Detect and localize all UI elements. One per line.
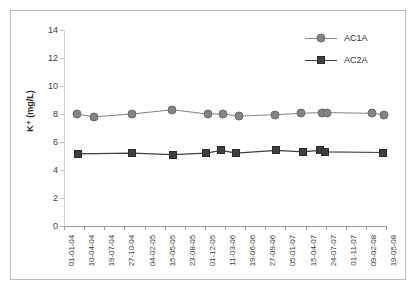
x-tick-label: 27-09-06	[268, 235, 277, 266]
legend-item-ac1a[interactable]: AC1A	[305, 27, 391, 49]
data-point-ac2a	[128, 149, 136, 157]
x-tick-mark	[366, 226, 367, 230]
data-point-ac1a	[235, 112, 244, 121]
data-point-ac2a	[202, 149, 210, 157]
x-tick-label: 01-11-07	[349, 235, 358, 266]
x-tick-label: 11-03-06	[228, 235, 237, 266]
x-tick-mark	[124, 226, 125, 230]
data-point-ac1a	[297, 109, 306, 118]
x-tick-mark	[225, 226, 226, 230]
legend-item-ac2a[interactable]: AC2A	[305, 49, 391, 71]
data-point-ac2a	[217, 146, 225, 154]
x-tick-label: 19-07-04	[107, 235, 116, 266]
data-point-ac1a	[379, 110, 388, 119]
x-tick-mark	[306, 226, 307, 230]
y-tick-label: 0	[53, 221, 58, 231]
legend-swatch-square-icon	[305, 55, 337, 65]
x-tick-mark	[386, 226, 387, 230]
data-point-ac2a	[379, 149, 387, 157]
x-tick-label: 15-04-07	[309, 235, 318, 266]
data-point-ac2a	[299, 148, 307, 156]
x-tick-mark	[205, 226, 206, 230]
x-tick-label: 10-04-04	[87, 235, 96, 266]
y-tick-label: 14	[48, 25, 58, 35]
x-tick-mark	[145, 226, 146, 230]
x-tick-label: 23-08-05	[188, 235, 197, 266]
x-tick-mark	[326, 226, 327, 230]
x-tick-label: 15-05-05	[168, 235, 177, 266]
x-tick-mark	[165, 226, 166, 230]
x-tick-label: 05-01-07	[288, 235, 297, 266]
data-point-ac2a	[321, 148, 329, 156]
x-tick-label: 19-05-08	[389, 235, 398, 266]
chart-legend: AC1AAC2A	[305, 27, 391, 71]
data-point-ac1a	[218, 110, 227, 119]
data-point-ac1a	[271, 110, 280, 119]
data-point-ac1a	[127, 110, 136, 119]
data-point-ac2a	[169, 151, 177, 159]
y-tick-label: 12	[48, 53, 58, 63]
x-tick-mark	[84, 226, 85, 230]
legend-label: AC2A	[344, 55, 368, 65]
x-tick-mark	[265, 226, 266, 230]
x-tick-mark	[64, 226, 65, 230]
x-tick-label: 01-12-05	[208, 235, 217, 266]
data-point-ac2a	[272, 146, 280, 154]
x-tick-mark	[346, 226, 347, 230]
data-point-ac2a	[74, 150, 82, 158]
data-point-ac1a	[367, 109, 376, 118]
x-tick-mark	[185, 226, 186, 230]
y-tick-label: 2	[53, 193, 58, 203]
series-line-ac2a	[78, 150, 383, 154]
x-tick-mark	[104, 226, 105, 230]
data-point-ac1a	[203, 110, 212, 119]
x-tick-label: 09-02-08	[369, 235, 378, 266]
data-point-ac1a	[322, 108, 331, 117]
y-tick-label: 10	[48, 81, 58, 91]
x-tick-mark	[245, 226, 246, 230]
x-tick-mark	[285, 226, 286, 230]
x-tick-label: 01-01-04	[67, 235, 76, 266]
x-tick-label: 04-02-05	[148, 235, 157, 266]
y-tick-label: 8	[53, 109, 58, 119]
y-tick-label: 6	[53, 137, 58, 147]
chart-frame: K⁺ (mg/L) 02468101214 01-01-0410-04-0419…	[10, 10, 406, 280]
data-point-ac1a	[168, 105, 177, 114]
y-tick-label: 4	[53, 165, 58, 175]
x-tick-label: 27-10-04	[127, 235, 136, 266]
y-axis-title: K⁺ (mg/L)	[25, 90, 35, 132]
x-tick-label: 19-06-06	[248, 235, 257, 266]
legend-label: AC1A	[344, 33, 368, 43]
legend-swatch-circle-icon	[305, 33, 337, 43]
series-line-ac1a	[77, 110, 384, 117]
data-point-ac1a	[89, 112, 98, 121]
data-point-ac1a	[72, 110, 81, 119]
x-tick-label: 24-07-07	[329, 235, 338, 266]
data-point-ac2a	[232, 149, 240, 157]
